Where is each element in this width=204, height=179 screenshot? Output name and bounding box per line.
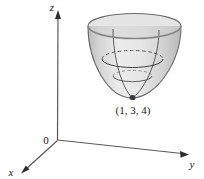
z-axis [55, 10, 61, 140]
y-axis-label: y [189, 158, 195, 170]
x-axis-line [26, 141, 58, 170]
z-axis-arrowhead [55, 10, 61, 19]
vertex-annotation: (1, 3, 4) [116, 95, 151, 117]
figure-canvas: 0 z y x [0, 0, 204, 179]
z-axis-line [58, 16, 59, 140]
x-axis [21, 141, 58, 174]
elliptic-paraboloid-surface [88, 13, 181, 98]
vertex-point-label: (1, 3, 4) [116, 104, 151, 117]
paraboloid-figure: 0 z y x [0, 0, 204, 179]
y-axis [58, 140, 190, 158]
y-axis-arrowhead [180, 151, 189, 158]
y-axis-line [58, 140, 183, 154]
vertex-point-dot [130, 95, 136, 100]
x-axis-label: x [8, 166, 14, 178]
z-axis-label: z [49, 1, 55, 13]
origin-label: 0 [43, 134, 49, 146]
